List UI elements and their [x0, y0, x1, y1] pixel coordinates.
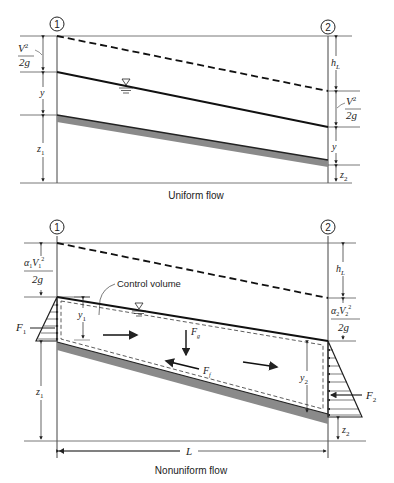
friction-force-arrow	[166, 361, 199, 369]
svg-text:1: 1	[54, 19, 60, 30]
energy-grade-line	[57, 36, 328, 91]
svg-text:2g: 2g	[19, 56, 31, 68]
caption-uniform-flow: Uniform flow	[168, 190, 224, 201]
section-1-marker-nonuniform: 1	[50, 220, 64, 234]
water-surface-line	[57, 72, 328, 127]
label-friction-force: Ff	[202, 365, 212, 378]
uniform-flow-diagram: 1 2	[18, 17, 361, 201]
label-velocity-head-1: V2 2g	[18, 42, 42, 68]
svg-text:2: 2	[325, 22, 331, 33]
label-velocity-head-2: V2 2g	[337, 95, 361, 121]
nonuniform-flow-diagram: 1 2 Control volume	[15, 220, 377, 476]
svg-text:2g: 2g	[32, 273, 44, 285]
pressure-distribution-2	[328, 341, 362, 417]
label-length: L	[185, 445, 192, 457]
svg-text:2: 2	[325, 222, 331, 233]
label-force-1: F1	[15, 321, 27, 336]
label-depth-2: y	[331, 141, 337, 152]
svg-text:V2: V2	[18, 42, 29, 54]
svg-text:α1V12: α1V12	[24, 256, 44, 269]
section-1-marker: 1	[50, 17, 64, 31]
caption-nonuniform-flow: Nonuniform flow	[155, 465, 228, 476]
svg-text:2g: 2g	[346, 109, 358, 121]
label-elevation-2-nonuniform: z2	[341, 424, 350, 438]
label-gravity-force: Fg	[190, 326, 200, 339]
svg-text:1: 1	[54, 222, 60, 233]
pressure-distribution-1	[30, 297, 58, 341]
label-force-2: F2	[365, 389, 377, 404]
label-control-volume: Control volume	[117, 278, 181, 289]
channel-bed	[57, 115, 328, 167]
svg-text:V2: V2	[346, 95, 357, 107]
open-channel-flow-diagram: 1 2	[0, 0, 394, 483]
section-2-marker: 2	[321, 20, 335, 34]
label-elevation-2: z2	[339, 169, 348, 183]
svg-text:2g: 2g	[338, 321, 350, 333]
section-2-marker-nonuniform: 2	[321, 220, 335, 234]
label-depth-1: y	[39, 87, 45, 98]
channel-bed-nonuniform	[57, 342, 328, 424]
svg-text:α2V22: α2V22	[331, 304, 351, 317]
energy-grade-line-nonuniform	[57, 243, 328, 298]
flow-arrow-2	[243, 362, 277, 367]
